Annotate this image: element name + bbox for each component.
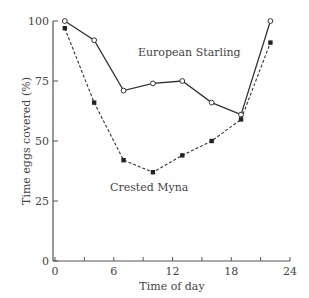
x-tick-label: 12 [166,265,180,278]
data-point-open-circle [268,19,273,24]
line-chart: 025507510006121824 European Starling Cre… [0,0,309,298]
series-label-myna: Crested Myna [110,181,189,194]
data-point-filled-square [180,153,184,157]
y-tick-label: 50 [35,135,49,148]
series-label-starling: European Starling [138,46,241,59]
y-tick-label: 25 [35,195,49,208]
x-tick-label: 0 [52,265,59,278]
x-tick-label: 24 [283,265,297,278]
y-axis-title: Time eggs covered (%) [20,77,33,205]
data-point-filled-square [92,100,96,104]
data-point-filled-square [63,26,67,30]
y-tick-label: 75 [35,75,49,88]
data-point-open-circle [62,19,67,24]
y-tick-label: 100 [28,15,49,28]
data-point-filled-square [151,170,155,174]
y-tick-label: 0 [42,255,49,268]
data-point-filled-square [268,40,272,44]
data-point-filled-square [239,117,243,121]
x-tick-label: 6 [110,265,117,278]
x-axis-title: Time of day [139,280,205,293]
data-point-open-circle [92,38,97,43]
series-group [62,19,272,175]
data-point-open-circle [209,100,214,105]
data-point-open-circle [151,81,156,86]
data-point-filled-square [121,158,125,162]
x-tick-label: 18 [224,265,238,278]
data-point-open-circle [121,88,126,93]
data-point-open-circle [180,79,185,84]
data-point-filled-square [209,139,213,143]
